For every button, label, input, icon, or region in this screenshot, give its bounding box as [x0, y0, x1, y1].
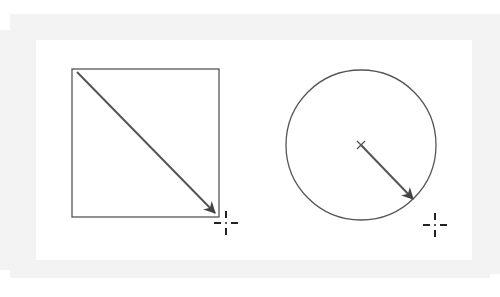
circle-figure: [286, 70, 447, 237]
rectangle-figure: [72, 69, 238, 235]
diagonal-arrow-icon: [77, 72, 215, 213]
crosshair-cursor-icon: [423, 213, 447, 237]
crosshair-cursor-icon: [214, 211, 238, 235]
diagram-canvas: [0, 0, 500, 297]
radius-arrow-icon: [361, 145, 413, 199]
